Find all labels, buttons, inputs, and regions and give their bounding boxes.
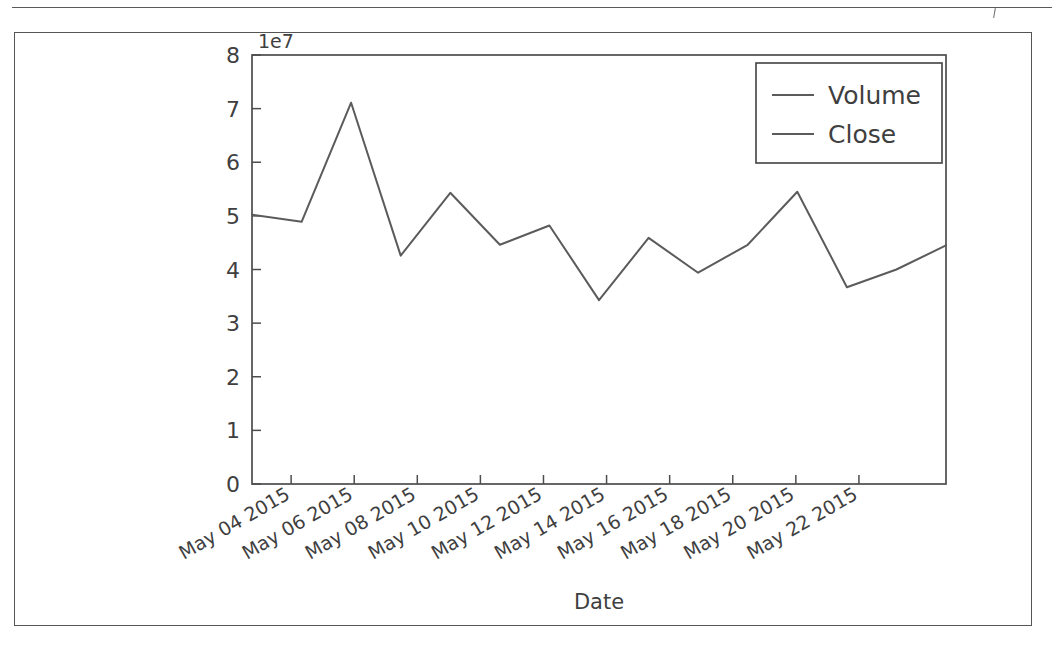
- y-tick-label: 4: [226, 258, 240, 283]
- y-tick-label: 2: [226, 365, 240, 390]
- line-chart: 012345678 1e7 May 04 2015May 06 2015May …: [0, 0, 1063, 657]
- y-tick-label: 0: [226, 472, 240, 497]
- y-tick-label: 7: [226, 97, 240, 122]
- y-tick-label: 3: [226, 311, 240, 336]
- chart-legend: VolumeClose: [756, 63, 942, 163]
- chart-figure: 012345678 1e7 May 04 2015May 06 2015May …: [0, 0, 1063, 657]
- legend-label-close: Close: [828, 120, 896, 149]
- y-tick-label: 1: [226, 418, 240, 443]
- legend-label-volume: Volume: [828, 81, 921, 110]
- x-axis-tick-labels: May 04 2015May 06 2015May 08 2015May 10 …: [175, 482, 861, 563]
- y-axis-ticks: [252, 55, 261, 484]
- x-axis-label: Date: [574, 590, 624, 614]
- y-tick-label: 8: [226, 43, 240, 68]
- y-axis-offset-label: 1e7: [258, 30, 294, 52]
- y-tick-label: 6: [226, 150, 240, 175]
- y-tick-label: 5: [226, 204, 240, 229]
- x-axis-ticks: [291, 475, 859, 484]
- y-axis-tick-labels: 012345678: [226, 43, 240, 497]
